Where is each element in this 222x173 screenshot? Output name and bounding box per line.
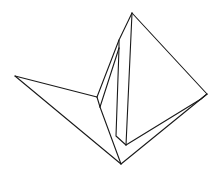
- panel-bottom-edge: [126, 94, 207, 145]
- origami-drawing: [0, 0, 222, 173]
- strip-outer-edge: [97, 13, 132, 97]
- inner-vertical-fold: [116, 48, 126, 145]
- panel-center-edge: [126, 13, 132, 145]
- origami-figure: Line drawing of a folded paper origami s…: [0, 0, 222, 173]
- panel-right-edge: [132, 13, 207, 94]
- strip-base-edge: [97, 97, 100, 107]
- tail-edge: [121, 94, 207, 164]
- strip-inner-edge: [100, 48, 119, 107]
